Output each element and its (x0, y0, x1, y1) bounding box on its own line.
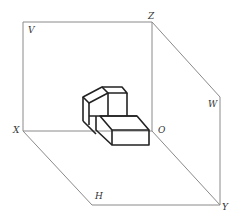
w-plane (152, 22, 220, 205)
l-shaped-block (83, 87, 149, 145)
base-top-face (100, 116, 149, 130)
v-plane-border (23, 22, 152, 131)
label-w-plane: W (208, 99, 218, 109)
chamfer-face (83, 87, 108, 103)
v-plane (23, 22, 152, 131)
base-front-face (112, 130, 149, 145)
label-z-axis: Z (147, 11, 155, 21)
label-y-axis: Y (222, 202, 229, 212)
oy-axis-line (152, 131, 220, 205)
h-plane-left-edge (23, 131, 92, 205)
label-h-plane: H (94, 191, 103, 201)
projection-diagram: V Z W X O H Y (0, 0, 240, 221)
h-plane (23, 131, 220, 205)
w-plane-top-edge (152, 22, 220, 97)
label-origin: O (158, 125, 166, 135)
label-x-axis: X (12, 125, 20, 135)
label-v-plane: V (28, 25, 36, 35)
